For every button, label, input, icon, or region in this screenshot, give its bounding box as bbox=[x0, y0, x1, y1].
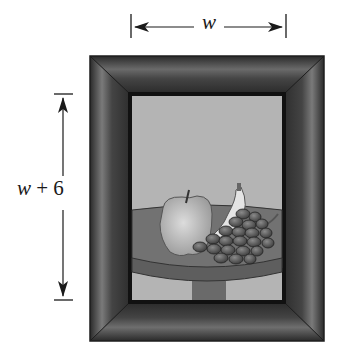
height-label-variable: w bbox=[17, 176, 31, 200]
still-life-painting bbox=[128, 92, 286, 304]
height-label-offset: + 6 bbox=[31, 176, 64, 200]
width-label: w bbox=[199, 12, 219, 33]
height-label: w + 6 bbox=[17, 176, 64, 201]
